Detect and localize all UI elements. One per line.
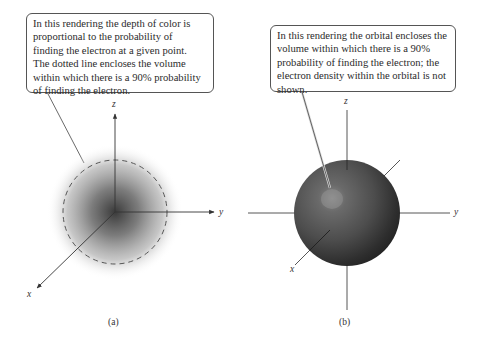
- sphere-highlight: [321, 189, 343, 209]
- callout-panel-a: In this rendering the depth of color is …: [26, 13, 214, 93]
- panel-label-a: (a): [108, 317, 119, 327]
- axis-label-z-a: z: [112, 99, 116, 109]
- panel-label-b: (b): [339, 317, 350, 327]
- panel-b-art: [248, 92, 450, 310]
- axis-label-y-a: y: [219, 207, 223, 217]
- callout-a-pointer: [47, 92, 84, 163]
- callout-panel-b: In this rendering the orbital encloses t…: [270, 25, 456, 92]
- orbital-figure: In this rendering the depth of color is …: [0, 0, 486, 352]
- orbital-sphere: [294, 160, 400, 266]
- axis-label-x-b: x: [290, 264, 294, 274]
- panel-a-art: [37, 92, 214, 288]
- axis-label-z-b: z: [344, 96, 348, 106]
- axis-label-x-a: x: [27, 289, 31, 299]
- axis-label-y-b: y: [454, 207, 458, 217]
